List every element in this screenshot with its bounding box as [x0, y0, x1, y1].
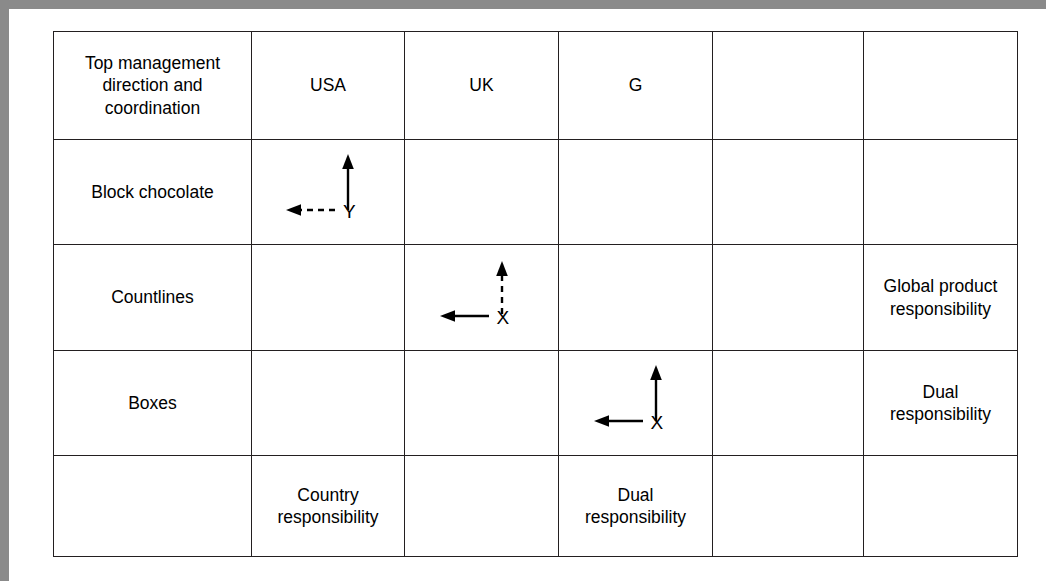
arrow-group-x-countlines: X	[423, 256, 541, 340]
header-cell-g: G	[559, 32, 713, 140]
header-line-2: direction and	[60, 74, 245, 96]
cell-boxes-blank-1	[713, 351, 864, 456]
header-cell-blank-2	[864, 32, 1018, 140]
cell-block-chocolate-g	[559, 140, 713, 245]
cell-boxes-g: X	[559, 351, 713, 456]
horizontal-arrow-head	[594, 415, 609, 427]
vertical-arrow-head	[496, 261, 508, 276]
header-cell-blank-1	[713, 32, 864, 140]
cell-boxes-uk	[405, 351, 559, 456]
arrow-label-y: Y	[343, 202, 356, 221]
vertical-arrow-head	[650, 365, 662, 380]
row-label-boxes: Boxes	[54, 351, 252, 456]
cell-boxes-usa	[252, 351, 405, 456]
page-frame-top-edge	[0, 0, 1046, 9]
table-row-countlines: Countlines X	[54, 245, 1018, 351]
arrow-label-x-countlines: X	[497, 308, 510, 327]
cell-countlines-blank-1	[713, 245, 864, 351]
cell-block-chocolate-uk	[405, 140, 559, 245]
table-header-row: Top management direction and coordinatio…	[54, 32, 1018, 140]
table-row-boxes: Boxes X	[54, 351, 1018, 456]
cell-countlines-global-product-responsibility: Global product responsibility	[864, 245, 1018, 351]
horizontal-arrow-head	[286, 204, 301, 216]
row-label-countlines: Countlines	[54, 245, 252, 351]
vertical-arrow-head	[342, 154, 354, 169]
cell-countlines-usa	[252, 245, 405, 351]
cell-countlines-g	[559, 245, 713, 351]
cell-block-chocolate-usa: Y	[252, 140, 405, 245]
row-label-block-chocolate: Block chocolate	[54, 140, 252, 245]
row-label-summary-blank	[54, 456, 252, 557]
matrix-table: Top management direction and coordinatio…	[53, 31, 1018, 557]
page-frame-left-edge	[0, 0, 9, 581]
cell-block-chocolate-blank-2	[864, 140, 1018, 245]
cell-summary-dual-responsibility: Dual responsibility	[559, 456, 713, 557]
arrow-label-x-boxes: X	[651, 413, 664, 432]
responsibility-matrix: Top management direction and coordinatio…	[53, 31, 1017, 556]
cell-countlines-uk: X	[405, 245, 559, 351]
horizontal-arrow-head	[440, 310, 455, 322]
table-row-block-chocolate: Block chocolate Y	[54, 140, 1018, 245]
cell-summary-blank-1	[405, 456, 559, 557]
arrow-svg-x-countlines	[423, 256, 541, 340]
header-line-1: Top management	[60, 52, 245, 74]
figure-page: Top management direction and coordinatio…	[0, 0, 1046, 581]
arrow-group-x-boxes: X	[577, 361, 695, 445]
cell-summary-blank-3	[864, 456, 1018, 557]
cell-block-chocolate-blank-1	[713, 140, 864, 245]
cell-boxes-dual-responsibility: Dual responsibility	[864, 351, 1018, 456]
header-cell-usa: USA	[252, 32, 405, 140]
arrow-svg-y	[269, 150, 387, 234]
header-cell-uk: UK	[405, 32, 559, 140]
cell-summary-blank-2	[713, 456, 864, 557]
table-row-summary: Country responsibility Dual responsibili…	[54, 456, 1018, 557]
header-line-3: coordination	[60, 97, 245, 119]
arrow-group-y: Y	[269, 150, 387, 234]
header-cell-dimension: Top management direction and coordinatio…	[54, 32, 252, 140]
arrow-svg-x-boxes	[577, 361, 695, 445]
cell-summary-country-responsibility: Country responsibility	[252, 456, 405, 557]
